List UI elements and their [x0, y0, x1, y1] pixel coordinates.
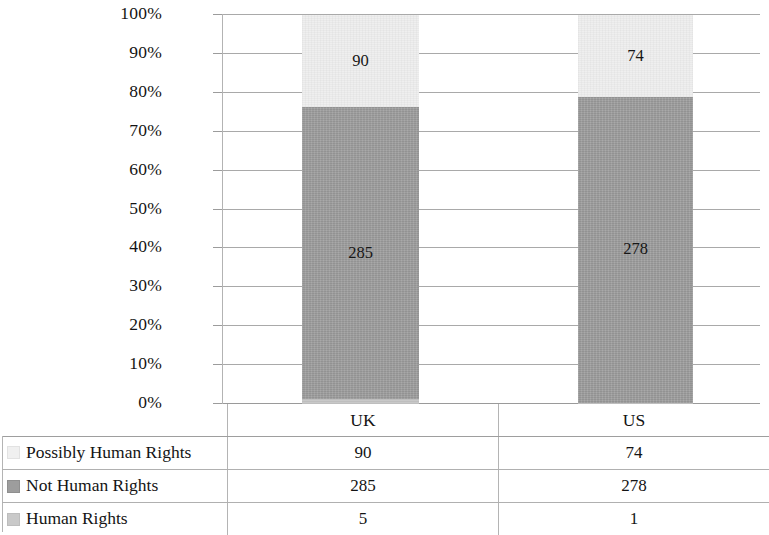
legend-entry-human-rights: Human Rights [2, 503, 228, 535]
y-tick-label-70: 70% [42, 122, 162, 140]
table-row: Possibly Human Rights 90 74 [2, 437, 769, 470]
y-tick-mark-70 [213, 131, 222, 132]
y-tick-label-90: 90% [42, 44, 162, 62]
cell-not-human-rights-uk: 285 [228, 470, 499, 503]
y-tick-label-40: 40% [42, 238, 162, 256]
category-label-us: US [499, 404, 769, 437]
category-label-uk: UK [228, 404, 499, 437]
legend-entry-possibly-human-rights: Possibly Human Rights [2, 437, 228, 470]
y-tick-label-50: 50% [42, 200, 162, 218]
bar-uk-segment-not-human-rights[interactable]: 285 [302, 107, 419, 399]
y-tick-mark-40 [213, 247, 222, 248]
y-tick-label-30: 30% [42, 277, 162, 295]
y-tick-mark-20 [213, 325, 222, 326]
legend-swatch-human-rights [7, 513, 20, 526]
y-tick-mark-100 [213, 14, 222, 15]
cell-possibly-us: 74 [499, 437, 769, 470]
table-row: Not Human Rights 285 278 [2, 470, 769, 503]
cell-not-human-rights-us: 278 [499, 470, 769, 503]
table-row: Human Rights 5 1 [2, 503, 769, 535]
bar-us[interactable]: 74 278 [578, 15, 693, 404]
cell-human-rights-us: 1 [499, 503, 769, 535]
y-tick-label-10: 10% [42, 355, 162, 373]
y-tick-label-60: 60% [42, 161, 162, 179]
bar-uk[interactable]: 90 285 [302, 15, 419, 404]
bar-us-segment-possibly-human-rights[interactable]: 74 [578, 15, 693, 97]
category-axis-row: UK US [2, 404, 769, 437]
y-tick-label-100: 100% [42, 5, 162, 23]
y-tick-label-80: 80% [42, 83, 162, 101]
y-tick-mark-30 [213, 286, 222, 287]
plot-area: 100%90%80%70%60%50%40%30%20%10%0% 90 285… [0, 0, 766, 415]
y-tick-mark-80 [213, 92, 222, 93]
y-tick-mark-10 [213, 364, 222, 365]
y-tick-mark-90 [213, 53, 222, 54]
bar-uk-label-not-human-rights: 285 [348, 245, 373, 262]
y-tick-mark-60 [213, 170, 222, 171]
legend-label-human-rights: Human Rights [26, 510, 128, 528]
legend-swatch-possibly-human-rights [7, 446, 20, 459]
bar-uk-segment-possibly-human-rights[interactable]: 90 [302, 15, 419, 107]
legend-label-not-human-rights: Not Human Rights [26, 477, 158, 495]
y-tick-mark-50 [213, 209, 222, 210]
y-axis-line [222, 14, 223, 404]
bar-uk-label-possibly: 90 [352, 53, 369, 70]
bar-us-label-possibly: 74 [627, 48, 644, 65]
category-row-spacer [2, 404, 228, 437]
cell-possibly-uk: 90 [228, 437, 499, 470]
y-tick-label-20: 20% [42, 316, 162, 334]
legend-label-possibly-human-rights: Possibly Human Rights [26, 444, 191, 462]
legend-entry-not-human-rights: Not Human Rights [2, 470, 228, 503]
bar-us-segment-not-human-rights[interactable]: 278 [578, 97, 693, 403]
bar-us-label-not-human-rights: 278 [623, 241, 648, 258]
legend-swatch-not-human-rights [7, 480, 20, 493]
data-table: UK US Possibly Human Rights 90 74 No [2, 404, 769, 535]
cell-human-rights-uk: 5 [228, 503, 499, 535]
